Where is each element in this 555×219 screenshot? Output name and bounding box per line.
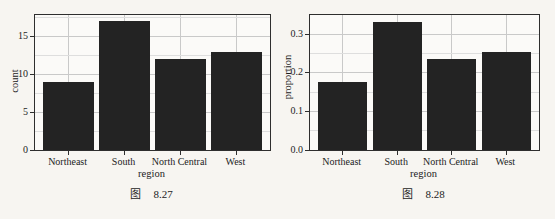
x-axis-tick: [236, 151, 237, 155]
bar-south: [373, 22, 422, 150]
bar-north-central: [155, 59, 205, 150]
x-axis-tick: [451, 151, 452, 155]
y-tick-label: 0.2: [277, 66, 303, 77]
bar-northeast: [318, 82, 367, 150]
x-axis-tick: [124, 151, 125, 155]
figure-caption: 图8.28: [309, 188, 538, 201]
x-tick-label: West: [190, 156, 280, 167]
scanned-figure-page: count 051015 NortheastSouthNorth Central…: [0, 0, 555, 219]
x-tick-label: West: [460, 156, 550, 167]
bar-northeast: [43, 82, 93, 150]
plot-panel: [34, 14, 271, 151]
x-axis-tick-labels: NortheastSouthNorth CentralWest: [34, 156, 269, 168]
x-axis-title: region: [309, 168, 538, 180]
y-tick-label: 0: [0, 144, 28, 155]
y-tick-label: 10: [0, 68, 28, 79]
caption-prefix: 图: [402, 188, 413, 200]
y-tick-label: 0.3: [277, 28, 303, 39]
bar-south: [99, 21, 149, 150]
figure-8-27: count 051015 NortheastSouthNorth Central…: [0, 0, 277, 219]
y-axis-tick: [30, 74, 34, 75]
y-axis-tick: [305, 34, 309, 35]
y-tick-label: 15: [0, 30, 28, 41]
x-axis-tick: [397, 151, 398, 155]
bar-west: [482, 52, 531, 150]
bar-north-central: [427, 59, 476, 150]
y-axis-tick-labels: 051015: [0, 14, 28, 149]
x-axis-tick: [68, 151, 69, 155]
x-axis-tick: [180, 151, 181, 155]
y-tick-label: 0.1: [277, 105, 303, 116]
y-tick-label: 0.0: [277, 144, 303, 155]
y-axis-tick: [30, 36, 34, 37]
y-axis-tick: [30, 150, 34, 151]
bar-west: [211, 52, 261, 150]
x-axis-tick-labels: NortheastSouthNorth CentralWest: [309, 156, 538, 168]
figure-8-28: proportion 0.00.10.20.3 NortheastSouthNo…: [277, 0, 555, 219]
caption-number: 8.27: [153, 188, 172, 200]
x-axis-title: region: [34, 168, 269, 180]
x-axis-tick: [342, 151, 343, 155]
y-tick-label: 5: [0, 106, 28, 117]
figure-caption: 图8.27: [34, 188, 269, 201]
y-axis-tick: [305, 150, 309, 151]
grid-line-minor: [35, 17, 270, 18]
x-axis-tick: [506, 151, 507, 155]
caption-prefix: 图: [130, 188, 141, 200]
y-axis-tick: [305, 72, 309, 73]
grid-line-major: [310, 34, 539, 35]
y-axis-tick-labels: 0.00.10.20.3: [277, 14, 303, 149]
grid-line-major: [35, 36, 270, 37]
y-axis-tick: [305, 111, 309, 112]
y-axis-tick: [30, 112, 34, 113]
plot-panel: [309, 14, 540, 151]
caption-number: 8.28: [425, 188, 444, 200]
